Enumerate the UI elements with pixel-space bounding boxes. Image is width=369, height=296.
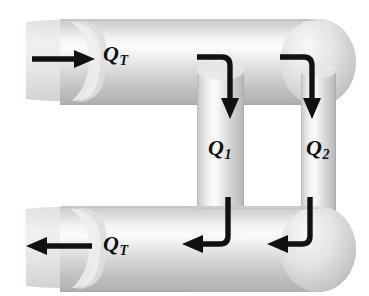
label-branch1-flow: Q1 xyxy=(208,137,231,162)
label-outlet-flow: QT xyxy=(103,233,128,258)
label-inlet-subscript: T xyxy=(119,53,128,68)
label-branch2-base: Q xyxy=(306,135,322,160)
label-branch2-subscript: 2 xyxy=(322,147,330,162)
label-inlet-base: Q xyxy=(103,41,119,66)
label-branch1-subscript: 1 xyxy=(224,147,232,162)
label-branch1-base: Q xyxy=(208,135,224,160)
label-outlet-subscript: T xyxy=(119,243,128,258)
label-inlet-flow: QT xyxy=(103,43,128,68)
pipe-flow-diagram: QT QT Q1 Q2 xyxy=(0,0,369,296)
label-branch2-flow: Q2 xyxy=(306,137,329,162)
bottom-pipe-overlap-shade xyxy=(190,206,356,292)
label-outlet-base: Q xyxy=(103,231,119,256)
